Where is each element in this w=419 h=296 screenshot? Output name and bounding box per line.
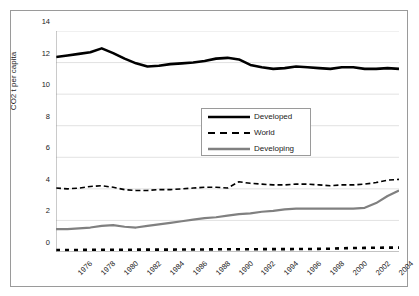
y-axis-tick-label: 8 xyxy=(20,111,50,120)
x-axis-tick-label: 2002 xyxy=(374,259,392,277)
x-axis-tick-label: 1976 xyxy=(76,259,94,277)
legend-item: Developing xyxy=(202,141,312,157)
x-axis-tick-label: 1980 xyxy=(122,259,140,277)
legend-key-icon xyxy=(208,141,250,157)
y-axis-tick-label: 12 xyxy=(20,48,50,57)
legend-label: World xyxy=(254,125,275,141)
x-axis-tick-label: 1994 xyxy=(282,259,300,277)
x-axis-tick-label: 1988 xyxy=(214,259,232,277)
y-axis-title: CO2 t per capita xyxy=(9,21,18,141)
series-line-developed xyxy=(56,48,399,69)
legend-key-icon xyxy=(208,125,250,141)
legend-label: Developed xyxy=(254,109,292,125)
x-axis-tick-label: 2004 xyxy=(396,259,414,277)
x-axis-tick-label: 1984 xyxy=(168,259,186,277)
chart-legend: DevelopedWorldDeveloping xyxy=(201,108,311,156)
y-axis-tick-label: 4 xyxy=(20,174,50,183)
x-axis-tick-label: 2000 xyxy=(351,259,369,277)
x-axis-tick-label: 1982 xyxy=(145,259,163,277)
x-axis-tick-label: 1992 xyxy=(259,259,277,277)
y-axis-tick-label: 0 xyxy=(20,238,50,247)
x-axis-tick-label: 1978 xyxy=(99,259,117,277)
chart-frame: CO2 t per capita 02468101214 19761978198… xyxy=(10,10,408,287)
chart-figure: CO2 t per capita 02468101214 19761978198… xyxy=(0,0,419,296)
series-line-developing xyxy=(56,190,399,229)
x-axis-tick-label: 1996 xyxy=(305,259,323,277)
x-axis-tick-label: 1986 xyxy=(191,259,209,277)
legend-key-icon xyxy=(208,109,250,125)
legend-label: Developing xyxy=(254,141,294,157)
legend-item: World xyxy=(202,125,312,141)
series-line-unlabeled-3 xyxy=(56,248,399,250)
y-axis-tick-label: 2 xyxy=(20,206,50,215)
y-axis-tick-label: 6 xyxy=(20,143,50,152)
legend-item: Developed xyxy=(202,109,312,125)
y-axis-tick-label: 10 xyxy=(20,80,50,89)
x-axis-tick-label: 1990 xyxy=(236,259,254,277)
x-axis-tick-label: 1998 xyxy=(328,259,346,277)
y-axis-tick-label: 14 xyxy=(20,17,50,26)
